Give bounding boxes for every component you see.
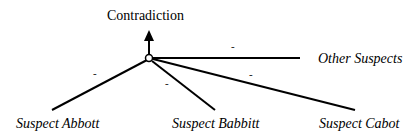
edge-abbott — [52, 60, 147, 110]
node-other-label: Other Suspects — [318, 52, 402, 66]
edge-sign-cabot: - — [249, 69, 253, 80]
node-babbitt-label: Suspect Babbitt — [172, 117, 260, 131]
edge-sign-abbott: - — [93, 68, 97, 79]
contradiction-label: Contradiction — [107, 9, 184, 23]
hub-node-icon — [146, 55, 153, 62]
arrowhead-icon — [144, 30, 154, 41]
edge-sign-babbitt: - — [165, 78, 169, 89]
edge-sign-other: - — [231, 41, 235, 52]
node-abbott-label: Suspect Abbott — [16, 117, 99, 131]
edge-babbitt — [152, 61, 215, 110]
node-cabot-label: Suspect Cabot — [319, 117, 400, 131]
